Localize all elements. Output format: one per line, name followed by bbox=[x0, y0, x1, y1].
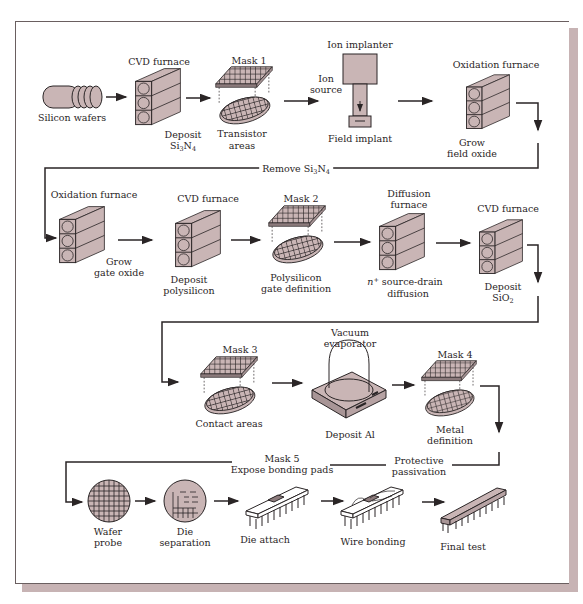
die-attach-chip-icon bbox=[246, 487, 308, 529]
label-source: source bbox=[310, 84, 342, 95]
label-polysilicon-cap: Polysilicon bbox=[270, 272, 321, 283]
label-furnace: furnace bbox=[391, 199, 428, 210]
label-deposit: Deposit bbox=[485, 281, 522, 292]
mask2-wafer-icon bbox=[269, 206, 326, 268]
label-areas: areas bbox=[229, 140, 255, 151]
label-mask-2: Mask 2 bbox=[283, 193, 318, 204]
label-die: Die bbox=[177, 526, 193, 537]
label-si3n4: Si3N4 bbox=[170, 140, 196, 151]
connector-line bbox=[516, 103, 538, 130]
label-grow: Grow bbox=[106, 256, 132, 267]
label-cvd-furnace: CVD furnace bbox=[177, 193, 239, 204]
mask4-wafer-icon bbox=[422, 361, 477, 421]
label-cvd-furnace: CVD furnace bbox=[128, 56, 190, 67]
label-ion-implanter: Ion implanter bbox=[327, 39, 393, 50]
label-deposit: Deposit bbox=[171, 274, 208, 285]
wafer-probe-icon bbox=[88, 480, 130, 522]
label-ion: Ion bbox=[318, 73, 334, 84]
label-cvd-furnace: CVD furnace bbox=[477, 203, 539, 214]
label-oxidation-furnace: Oxidation furnace bbox=[51, 189, 138, 200]
connector-line bbox=[330, 143, 538, 168]
label-wafer: Wafer bbox=[94, 526, 122, 537]
label-transistor: Transistor bbox=[217, 128, 267, 139]
vacuum-evaporator-icon bbox=[312, 340, 386, 418]
label-separation: separation bbox=[159, 537, 210, 548]
label-deposit: Deposit bbox=[165, 129, 202, 140]
label-deposit-al: Deposit Al bbox=[325, 429, 375, 440]
connector-line bbox=[527, 245, 538, 282]
label-protective: Protective bbox=[394, 455, 443, 466]
diffusion-furnace-icon bbox=[380, 214, 425, 270]
label-n-source-drain: n+ source-drain bbox=[367, 276, 442, 287]
label-die-attach: Die attach bbox=[240, 534, 290, 545]
connector-line bbox=[452, 452, 499, 465]
label-contact-areas: Contact areas bbox=[195, 418, 262, 429]
final-test-chip-icon bbox=[441, 488, 506, 533]
label-polysilicon: polysilicon bbox=[163, 285, 214, 296]
label-oxidation-furnace: Oxidation furnace bbox=[453, 59, 540, 70]
mask1-wafer-icon bbox=[216, 67, 273, 129]
label-metal: Metal bbox=[436, 424, 464, 435]
connector-line bbox=[480, 386, 499, 432]
label-silicon-wafers: Silicon wafers bbox=[38, 112, 106, 123]
label-mask-5: Mask 5 bbox=[264, 453, 299, 464]
label-final-test: Final test bbox=[440, 541, 486, 552]
label-field-implant: Field implant bbox=[328, 133, 392, 144]
label-wire-bonding: Wire bonding bbox=[340, 536, 405, 547]
label-diffusion: diffusion bbox=[387, 288, 429, 299]
label-remove-si3n4: Remove Si3N4 bbox=[259, 163, 333, 174]
label-mask-1: Mask 1 bbox=[231, 55, 266, 66]
label-gate-oxide: gate oxide bbox=[94, 267, 144, 278]
label-definition: definition bbox=[427, 435, 473, 446]
oxidation-furnace-icon bbox=[467, 75, 510, 129]
cvd-furnace-icon bbox=[136, 69, 181, 125]
label-field-oxide: field oxide bbox=[447, 148, 497, 159]
label-vacuum: Vacuum bbox=[331, 327, 369, 338]
wire-bonding-chip-icon bbox=[341, 487, 403, 529]
silicon-wafers-icon bbox=[43, 86, 102, 108]
label-evaporator: evaporator bbox=[324, 338, 377, 349]
label-grow: Grow bbox=[459, 137, 485, 148]
die-separation-icon bbox=[164, 480, 206, 522]
cvd-furnace-icon bbox=[176, 211, 221, 267]
label-probe: probe bbox=[94, 537, 122, 548]
label-sio2: SiO2 bbox=[492, 292, 513, 303]
label-diffusion: Diffusion bbox=[387, 188, 430, 199]
label-mask-3: Mask 3 bbox=[222, 344, 257, 355]
oxidation-furnace-icon bbox=[60, 207, 105, 263]
cvd-furnace-icon bbox=[480, 220, 523, 274]
mask3-wafer-icon bbox=[201, 357, 258, 419]
label-mask-4: Mask 4 bbox=[437, 349, 472, 360]
label-gate-definition: gate definition bbox=[261, 283, 331, 294]
label-expose-bonding-pads: Expose bonding pads bbox=[231, 464, 334, 475]
label-passivation: passivation bbox=[392, 466, 446, 477]
ion-implanter-icon bbox=[343, 54, 377, 127]
